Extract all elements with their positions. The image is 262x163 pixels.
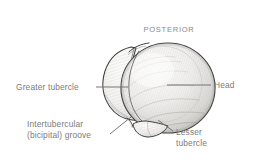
label-head: Head xyxy=(214,80,235,91)
orientation-label-posterior: POSTERIOR xyxy=(138,25,200,36)
label-lesser-tubercle: Lesser tubercle xyxy=(176,127,207,148)
anatomy-figure: POSTERIOR Greater tubercle Head Intertub… xyxy=(0,0,262,163)
label-greater-tubercle: Greater tubercle xyxy=(16,82,79,93)
leader-line-groove xyxy=(110,117,131,134)
label-intertubercular-groove: Intertubercular (bicipital) groove xyxy=(27,119,91,140)
